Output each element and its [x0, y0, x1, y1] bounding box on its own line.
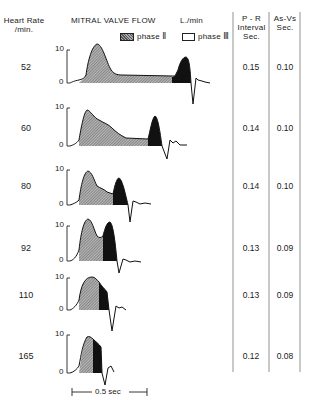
heart-rate-value: 60 [6, 123, 46, 133]
pr-interval-value: 0.13 [235, 290, 267, 300]
y-tick-0: 0 [59, 140, 63, 149]
heart-rate-value: 110 [6, 290, 46, 300]
y-tick-0: 0 [59, 367, 63, 376]
y-tick-0: 0 [59, 304, 63, 313]
waveform-60 [67, 108, 187, 159]
heart-rate-value: 92 [6, 243, 46, 253]
pr-interval-value: 0.14 [235, 181, 267, 191]
heart-rate-value: 52 [6, 62, 46, 72]
y-tick-10: 10 [55, 102, 64, 111]
y-tick-10: 10 [55, 44, 64, 53]
waveform-92 [67, 219, 141, 273]
y-tick-10: 10 [55, 329, 64, 338]
pr-interval-value: 0.15 [235, 62, 267, 72]
scale-bar-label: 0.5 sec [95, 387, 121, 396]
y-tick-10: 10 [55, 272, 64, 281]
as-vs-value: 0.10 [270, 181, 300, 191]
waveform-165 [67, 335, 114, 385]
y-tick-0: 0 [59, 77, 63, 86]
waveform-110 [67, 277, 126, 331]
as-vs-value: 0.08 [270, 351, 300, 361]
heart-rate-value: 80 [6, 181, 46, 191]
pr-interval-value: 0.12 [235, 351, 267, 361]
waveform-80 [67, 170, 151, 222]
as-vs-value: 0.10 [270, 123, 300, 133]
heart-rate-value: 165 [6, 351, 46, 361]
pr-interval-value: 0.13 [235, 243, 267, 253]
as-vs-value: 0.09 [270, 243, 300, 253]
y-tick-0: 0 [59, 255, 63, 264]
y-tick-10: 10 [55, 220, 64, 229]
y-tick-10: 10 [55, 164, 64, 173]
waveform-52 [67, 44, 210, 104]
as-vs-value: 0.09 [270, 290, 300, 300]
y-tick-0: 0 [59, 199, 63, 208]
pr-interval-value: 0.14 [235, 123, 267, 133]
as-vs-value: 0.10 [270, 62, 300, 72]
